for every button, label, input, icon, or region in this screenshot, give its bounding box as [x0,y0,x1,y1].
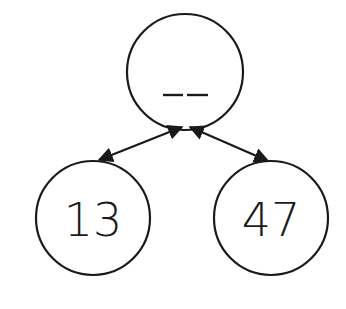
whole-node [127,14,243,130]
left-connector-arrow [99,127,182,160]
part-node-left: 13 [36,161,150,275]
right-part-value: 47 [242,193,301,247]
part-node-right: 47 [214,161,328,275]
left-part-value: 13 [64,193,123,247]
right-connector-arrow [190,127,268,161]
number-bond-diagram: 13 47 [0,0,346,309]
whole-circle [127,14,243,130]
